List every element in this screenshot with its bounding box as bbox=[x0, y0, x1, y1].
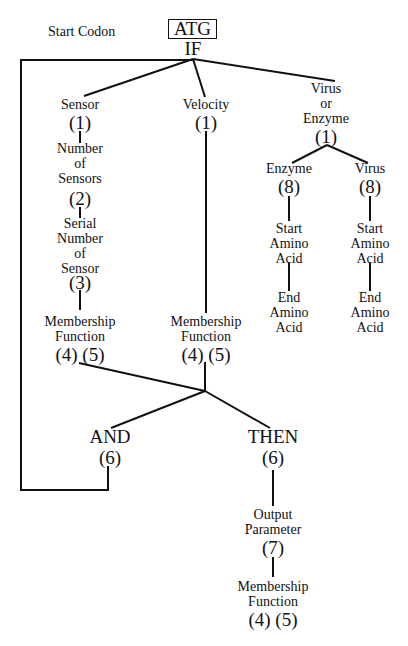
velocity-membership-node: Membership Function bbox=[171, 314, 242, 344]
serial-number-code: (3) bbox=[69, 273, 91, 292]
velocity-code: (1) bbox=[195, 113, 217, 132]
enzyme-end-amino-acid: End Amino Acid bbox=[270, 290, 309, 335]
output-parameter-code: (7) bbox=[262, 538, 284, 557]
line: End bbox=[270, 290, 309, 305]
line: Sensors bbox=[57, 171, 103, 186]
line: Membership bbox=[45, 314, 116, 329]
and-code: (6) bbox=[99, 448, 121, 467]
virus-or-enzyme-node: Virus or Enzyme bbox=[303, 81, 349, 126]
line: Function bbox=[238, 594, 309, 609]
if-to-sensor bbox=[84, 59, 193, 96]
enzyme-start-amino-acid: Start Amino Acid bbox=[270, 221, 309, 266]
velocity-node: Velocity bbox=[183, 97, 230, 112]
virus-end-amino-acid: End Amino Acid bbox=[351, 290, 390, 335]
line: of bbox=[57, 156, 103, 171]
line: Parameter bbox=[245, 522, 302, 537]
and-node: AND bbox=[89, 427, 130, 447]
then-code: (6) bbox=[262, 448, 284, 467]
line: Acid bbox=[351, 251, 390, 266]
then-node: THEN bbox=[248, 427, 299, 447]
sensor-code: (1) bbox=[69, 113, 91, 132]
line: End bbox=[351, 290, 390, 305]
output-membership-node: Membership Function bbox=[238, 579, 309, 609]
line: Amino bbox=[351, 305, 390, 320]
line: of bbox=[57, 246, 103, 261]
line: Membership bbox=[238, 579, 309, 594]
number-of-sensors-code: (2) bbox=[69, 189, 91, 208]
line: Function bbox=[45, 329, 116, 344]
if-to-virus-enzyme bbox=[193, 59, 335, 81]
line: Start bbox=[270, 221, 309, 236]
line: Start bbox=[351, 221, 390, 236]
start-codon-label: Start Codon bbox=[48, 24, 115, 40]
virus-node: Virus bbox=[355, 161, 385, 176]
output-parameter-node: Output Parameter bbox=[245, 507, 302, 537]
sensor-membership-code: (4) (5) bbox=[55, 345, 104, 364]
line: Output bbox=[245, 507, 302, 522]
sensor-node: Sensor bbox=[61, 97, 99, 112]
line: Number bbox=[57, 141, 103, 156]
line: Acid bbox=[270, 251, 309, 266]
if-to-velocity bbox=[193, 59, 205, 97]
output-membership-code: (4) (5) bbox=[248, 610, 297, 629]
line: Membership bbox=[171, 314, 242, 329]
serial-number-node: Serial Number of Sensor bbox=[57, 216, 103, 276]
virus-or-enzyme-code: (1) bbox=[315, 127, 337, 146]
line: Acid bbox=[270, 320, 309, 335]
virus-start-amino-acid: Start Amino Acid bbox=[351, 221, 390, 266]
line: Acid bbox=[351, 320, 390, 335]
virus-code: (8) bbox=[359, 177, 381, 196]
line: Number bbox=[57, 231, 103, 246]
velocity-membership-code: (4) (5) bbox=[181, 345, 230, 364]
if-keyword: IF bbox=[185, 39, 202, 59]
line: Amino bbox=[270, 236, 309, 251]
line: Function bbox=[171, 329, 242, 344]
sensor-membership-node: Membership Function bbox=[45, 314, 116, 344]
line: Amino bbox=[351, 236, 390, 251]
line: Amino bbox=[270, 305, 309, 320]
atg-codon-box: ATG bbox=[168, 19, 217, 39]
line: Enzyme bbox=[303, 111, 349, 126]
line: or bbox=[303, 96, 349, 111]
line: Serial bbox=[57, 216, 103, 231]
enzyme-code: (8) bbox=[278, 177, 300, 196]
line: Virus bbox=[303, 81, 349, 96]
enzyme-node: Enzyme bbox=[266, 161, 312, 176]
number-of-sensors-node: Number of Sensors bbox=[57, 141, 103, 186]
